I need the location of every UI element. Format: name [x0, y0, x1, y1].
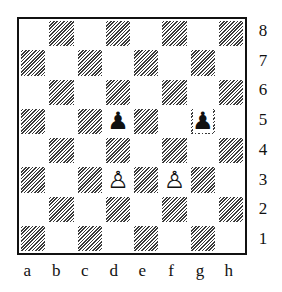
square-a6: [19, 78, 47, 107]
square-a5: [19, 107, 47, 136]
rank-label: 6: [256, 80, 270, 100]
square-h3: [217, 165, 245, 194]
square-g2: [189, 195, 217, 224]
rank-label: 3: [256, 170, 270, 190]
square-h5: [217, 107, 245, 136]
square-e4: [132, 136, 160, 165]
square-c3: [76, 165, 104, 194]
black-pawn-icon: ♟: [107, 109, 129, 133]
square-h2: [217, 195, 245, 224]
square-g7: [189, 48, 217, 77]
square-g5: ♟: [189, 107, 217, 136]
square-h1: [217, 224, 245, 253]
square-b4: [47, 136, 75, 165]
square-g8: [189, 19, 217, 48]
square-b6: [47, 78, 75, 107]
square-e6: [132, 78, 160, 107]
square-c4: [76, 136, 104, 165]
file-label: b: [42, 261, 70, 281]
white-pawn-bg: ♙: [164, 168, 184, 192]
square-a1: [19, 224, 47, 253]
square-c7: [76, 48, 104, 77]
square-e5: [132, 107, 160, 136]
square-f2: [160, 195, 188, 224]
black-pawn-icon: ♟: [192, 109, 214, 133]
square-f3: ♙: [160, 165, 188, 194]
rank-label: 4: [256, 140, 270, 160]
square-f4: [160, 136, 188, 165]
square-a8: [19, 19, 47, 48]
white-pawn-icon: ♙: [107, 168, 129, 192]
square-h4: [217, 136, 245, 165]
square-b2: [47, 195, 75, 224]
square-b3: [47, 165, 75, 194]
square-g6: [189, 78, 217, 107]
square-e7: [132, 48, 160, 77]
square-b5: [47, 107, 75, 136]
square-e2: [132, 195, 160, 224]
square-a7: [19, 48, 47, 77]
square-h6: [217, 78, 245, 107]
square-c2: [76, 195, 104, 224]
square-g4: [189, 136, 217, 165]
rank-label: 7: [256, 51, 270, 71]
square-d4: [104, 136, 132, 165]
square-b7: [47, 48, 75, 77]
square-e1: [132, 224, 160, 253]
square-e8: [132, 19, 160, 48]
square-d7: [104, 48, 132, 77]
file-label: h: [215, 261, 243, 281]
square-f1: [160, 224, 188, 253]
square-b1: [47, 224, 75, 253]
square-d2: [104, 195, 132, 224]
white-pawn-icon: ♙: [164, 168, 186, 192]
rank-label: 5: [256, 110, 270, 130]
square-c8: [76, 19, 104, 48]
file-label: a: [13, 261, 41, 281]
square-g3: [189, 165, 217, 194]
square-d5: ♟: [104, 107, 132, 136]
black-pawn-bg: ♟: [193, 109, 213, 133]
square-a2: [19, 195, 47, 224]
file-label: c: [71, 261, 99, 281]
square-d6: [104, 78, 132, 107]
square-f5: [160, 107, 188, 136]
square-b8: [47, 19, 75, 48]
black-pawn-bg: ♟: [108, 109, 128, 133]
file-label: g: [186, 261, 214, 281]
square-d1: [104, 224, 132, 253]
file-label: f: [157, 261, 185, 281]
square-h8: [217, 19, 245, 48]
rank-label: 1: [256, 229, 270, 249]
square-e3: [132, 165, 160, 194]
square-a3: [19, 165, 47, 194]
square-c5: [76, 107, 104, 136]
square-g1: [189, 224, 217, 253]
square-c6: [76, 78, 104, 107]
rank-label: 2: [256, 199, 270, 219]
file-label: d: [100, 261, 128, 281]
square-h7: [217, 48, 245, 77]
square-d8: [104, 19, 132, 48]
square-a4: [19, 136, 47, 165]
square-f6: [160, 78, 188, 107]
square-c1: [76, 224, 104, 253]
square-f7: [160, 48, 188, 77]
chess-board: ♟♟♙♙: [17, 17, 247, 255]
file-label: e: [128, 261, 156, 281]
rank-label: 8: [256, 21, 270, 41]
square-f8: [160, 19, 188, 48]
square-d3: ♙: [104, 165, 132, 194]
white-pawn-bg: ♙: [108, 168, 128, 192]
